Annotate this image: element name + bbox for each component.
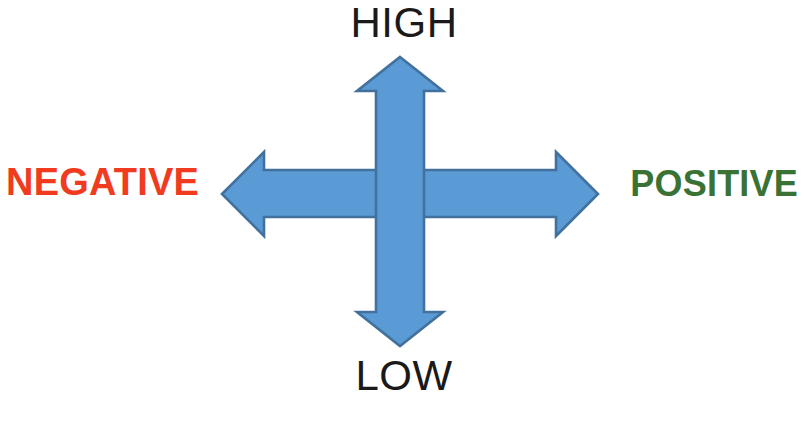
label-high: HIGH (0, 2, 808, 44)
label-negative: NEGATIVE (6, 163, 199, 201)
label-low: LOW (0, 355, 808, 397)
label-positive: POSITIVE (630, 166, 798, 202)
diagram-canvas: HIGH NEGATIVE POSITIVE LOW (0, 0, 808, 428)
